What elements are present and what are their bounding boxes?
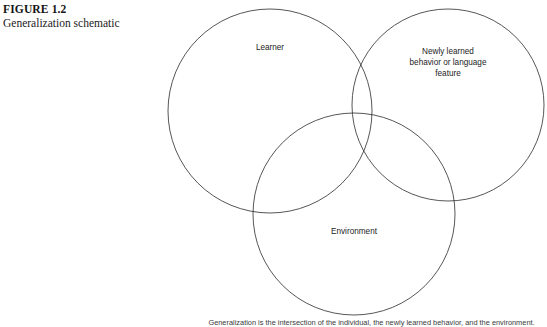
venn-diagram: Learner Newly learned behavior or langua…	[0, 0, 547, 327]
circle-newly-learned	[352, 9, 544, 201]
figure-page: FIGURE 1.2 Generalization schematic Lear…	[0, 0, 547, 327]
figure-footnote: Generalization is the intersection of th…	[196, 318, 547, 327]
circle-label-environment: Environment	[304, 226, 404, 237]
circle-label-newly-learned: Newly learned behavior or language featu…	[378, 46, 518, 80]
circle-label-learner: Learner	[220, 42, 320, 53]
circle-learner	[168, 9, 372, 213]
circle-environment	[253, 113, 455, 315]
